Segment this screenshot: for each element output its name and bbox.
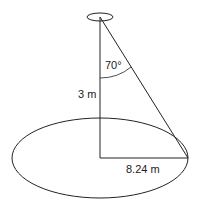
height-label: 3 m (78, 88, 96, 100)
cone-diagram: 70° 3 m 8.24 m (0, 0, 200, 209)
angle-label: 70° (105, 59, 122, 71)
slant-line (100, 17, 188, 158)
radius-label: 8.24 m (126, 163, 160, 175)
